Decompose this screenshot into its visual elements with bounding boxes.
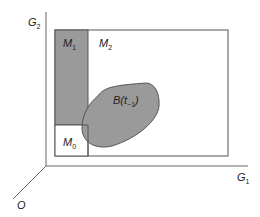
origin-label: O [17, 199, 26, 211]
g2-axis-label: G2 [28, 16, 41, 30]
phase-diagram: G2 G1 O M1 M2 M0 B(t−1) [0, 0, 260, 217]
blob-label: B(t−1) [113, 94, 139, 108]
origin-axis [13, 166, 46, 199]
g1-axis-label: G1 [237, 171, 250, 185]
